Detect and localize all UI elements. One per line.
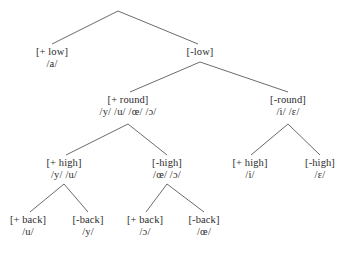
tree-node-plus-round[interactable]: [+ round]/y/ /u/ /œ/ /ɔ/	[100, 94, 157, 117]
node-phonemes-label: /ɛ/	[305, 169, 335, 180]
node-feature-label: [-back]	[188, 214, 219, 225]
node-feature-label: [+ high]	[46, 157, 81, 168]
node-phonemes-label: /œ/ /ɔ/	[152, 169, 182, 180]
node-feature-label: [-back]	[72, 214, 103, 225]
node-feature-label: [+ high]	[232, 157, 267, 168]
tree-edges-layer	[0, 0, 348, 253]
tree-edge	[251, 124, 288, 155]
tree-node-plus-high-unround[interactable]: [+ high]/i/	[232, 157, 267, 180]
tree-edge	[288, 124, 320, 155]
node-phonemes-label: /ɔ/	[127, 226, 163, 237]
node-feature-label: [-low]	[187, 46, 214, 57]
tree-edge	[167, 184, 204, 212]
tree-edge	[146, 184, 167, 212]
tree-edge	[30, 184, 64, 212]
node-feature-label: [+ back]	[127, 214, 163, 225]
tree-node-minus-back-high[interactable]: [-back]/y/	[72, 214, 103, 237]
tree-node-plus-back-high[interactable]: [+ back]/u/	[10, 214, 46, 237]
tree-edge	[52, 11, 118, 44]
tree-node-minus-back-low[interactable]: [-back]/œ/	[188, 214, 219, 237]
tree-node-minus-high-round[interactable]: [-high]/œ/ /ɔ/	[152, 157, 182, 180]
tree-edge	[130, 62, 200, 92]
tree-edge	[64, 184, 88, 212]
node-phonemes-label: /i/	[232, 169, 267, 180]
tree-node-minus-high-unround[interactable]: [-high]/ɛ/	[305, 157, 335, 180]
node-feature-label: [+ back]	[10, 214, 46, 225]
node-phonemes-label: /a/	[36, 58, 68, 69]
node-feature-label: [-high]	[305, 157, 335, 168]
tree-node-minus-low[interactable]: [-low]	[187, 46, 214, 57]
tree-node-plus-low[interactable]: [+ low]/a/	[36, 46, 68, 69]
node-phonemes-label: /y/ /u/	[46, 169, 81, 180]
node-phonemes-label: /u/	[10, 226, 46, 237]
tree-edge	[118, 11, 198, 44]
tree-node-minus-round[interactable]: [-round]/i/ /ɛ/	[270, 94, 306, 117]
tree-node-plus-back-low[interactable]: [+ back]/ɔ/	[127, 214, 163, 237]
node-phonemes-label: /y/	[72, 226, 103, 237]
tree-edge	[200, 62, 288, 92]
tree-edge	[128, 124, 167, 155]
node-feature-label: [-round]	[270, 94, 306, 105]
node-phonemes-label: /i/ /ɛ/	[270, 106, 306, 117]
node-phonemes-label: /œ/	[188, 226, 219, 237]
node-feature-label: [-high]	[152, 157, 182, 168]
node-feature-label: [+ low]	[36, 46, 68, 57]
node-phonemes-label: /y/ /u/ /œ/ /ɔ/	[100, 106, 157, 117]
node-feature-label: [+ round]	[100, 94, 157, 105]
feature-tree-diagram: [+ low]/a/[-low][+ round]/y/ /u/ /œ/ /ɔ/…	[0, 0, 348, 253]
tree-edge	[66, 124, 128, 155]
tree-node-plus-high-round[interactable]: [+ high]/y/ /u/	[46, 157, 81, 180]
